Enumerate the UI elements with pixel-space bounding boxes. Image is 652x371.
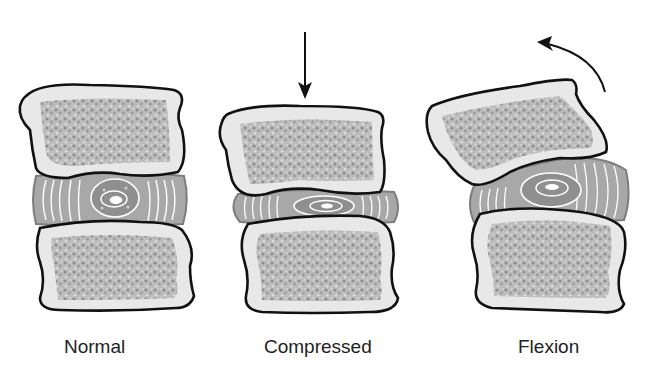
nucleus-normal (91, 179, 139, 217)
vertebra-upper-normal (20, 84, 185, 178)
vertebra-lower-flexion (472, 208, 625, 312)
vertebra-lower-normal (37, 221, 194, 311)
caption-compressed: Compressed (264, 336, 372, 358)
panel-normal (20, 84, 194, 310)
disc-normal (33, 172, 187, 227)
panel-compressed (220, 32, 398, 313)
vertebra-lower-compressed (242, 216, 398, 313)
nucleus-compressed (294, 196, 354, 216)
panel-flexion (427, 36, 629, 312)
nucleus-flexion (521, 173, 581, 207)
caption-flexion: Flexion (518, 336, 579, 358)
disc-loading-diagram (0, 0, 652, 371)
downward-load-arrow-icon (298, 32, 312, 99)
caption-normal: Normal (64, 336, 125, 358)
vertebra-upper-compressed (220, 106, 385, 196)
